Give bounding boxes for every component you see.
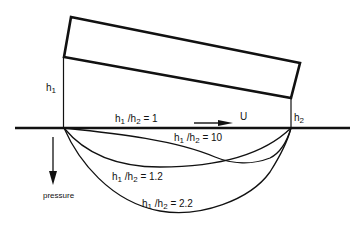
- velocity-label: U: [240, 112, 247, 122]
- inclined-slider-block: [64, 17, 300, 98]
- ratio-1-2-label: h1 /h2 = 1.2: [112, 172, 163, 184]
- ratio-2-2-label: h1 /h2 = 2.2: [142, 199, 193, 211]
- h1-label: h1: [46, 83, 56, 95]
- h2-label: h2: [294, 113, 304, 125]
- slider-bearing-pressure-diagram: h1 h2 U pressure h1 /h2 = 1 h1 /h2 = 10 …: [0, 0, 359, 231]
- ratio-10-label: h1 /h2 = 10: [174, 133, 222, 145]
- curve-ratio-10-end: [240, 128, 291, 157]
- pressure-down-arrow-icon: [49, 137, 57, 185]
- pressure-axis-label: pressure: [43, 192, 74, 200]
- ratio-1-label: h1 /h2 = 1: [115, 114, 158, 126]
- velocity-arrow-icon: [194, 120, 233, 126]
